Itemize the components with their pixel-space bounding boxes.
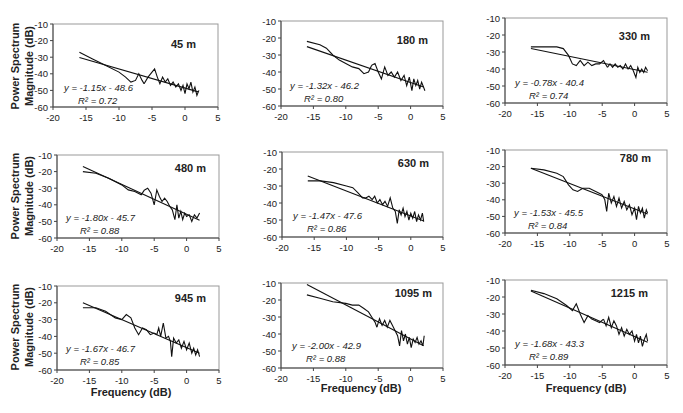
y-tick-label: -30 <box>486 309 500 320</box>
y-tick-label: -40 <box>38 199 52 210</box>
y-tick-label: -30 <box>38 183 52 194</box>
regression-equation: y = -1.53x - 45.5 <box>513 207 584 218</box>
y-tick-label: -50 <box>263 215 277 226</box>
y-tick-label: -30 <box>262 312 276 323</box>
x-tick-label: 0 <box>408 242 413 253</box>
y-tick-label: -20 <box>486 161 500 172</box>
x-tick-label: 0 <box>184 375 189 386</box>
y-tick-label: -50 <box>38 348 52 359</box>
y-tick-label: -30 <box>263 181 277 192</box>
panel-label: 1215 m <box>611 287 649 299</box>
x-tick-label: 5 <box>440 111 445 122</box>
regression-equation: y = -1.68x - 43.3 <box>514 338 585 349</box>
y-axis-title-row-1: Power Spectrum Magnitude (dB) <box>9 22 35 109</box>
x-tick-label: 0 <box>632 370 637 381</box>
panel-8: -10-20-30-40-50-60-20-15-10-5051095 my =… <box>262 278 445 385</box>
regression-equation: y = -1.15x - 48.6 <box>63 82 134 93</box>
regression-equation: y = -1.32x - 46.2 <box>289 80 360 91</box>
series-spectrum-line <box>602 193 647 220</box>
y-tick-label: -60 <box>262 363 276 374</box>
x-tick-label: -5 <box>150 243 158 254</box>
r-squared-label: R² = 0.84 <box>528 220 567 231</box>
y-tick-label: -10 <box>486 275 500 286</box>
y-tick-label: -60 <box>486 360 500 371</box>
y-tick-label: -20 <box>486 292 500 303</box>
series-spectrum-line <box>604 317 648 346</box>
y-tick-label: -30 <box>38 314 52 325</box>
y-tick-label: -30 <box>486 178 500 189</box>
series-spectrum-line <box>366 196 424 223</box>
y-tick-label: -60 <box>34 102 48 113</box>
x-tick-label: 5 <box>664 108 669 119</box>
panel-6: -10-20-30-40-50-60-20-15-10-505780 my = … <box>486 145 669 250</box>
y-tick-label: -50 <box>262 84 276 95</box>
series-smoothed-line <box>79 52 144 84</box>
x-tick-label: -10 <box>340 242 354 253</box>
y-axis-title-line1: Power Spectrum <box>9 152 21 239</box>
panel-3: -10-20-30-40-50-60-20-15-10-505330 my = … <box>486 13 669 120</box>
panel-5: -10-20-30-40-50-60-20-15-10-505630 my = … <box>263 147 445 254</box>
y-tick-label: -10 <box>38 150 52 161</box>
r-squared-label: R² = 0.88 <box>80 225 120 236</box>
panel-label: 945 m <box>175 292 206 304</box>
x-tick-label: -10 <box>112 112 126 123</box>
r-squared-label: R² = 0.86 <box>307 223 347 234</box>
regression-equation: y = -1.47x - 47.6 <box>292 210 363 221</box>
panel-label: 330 m <box>619 30 650 42</box>
series-spectrum-line <box>144 69 199 96</box>
panel-2: -10-20-30-40-50-60-20-15-10-505180 my = … <box>262 16 445 123</box>
x-tick-label: -15 <box>83 375 97 386</box>
y-tick-label: -40 <box>262 329 276 340</box>
x-tick-label: -20 <box>50 375 64 386</box>
x-tick-label: -15 <box>83 243 97 254</box>
regression-equation: y = -0.78x - 40.4 <box>514 77 584 88</box>
x-tick-label: -5 <box>374 111 382 122</box>
y-tick-label: -20 <box>262 33 276 44</box>
y-tick-label: -20 <box>38 166 52 177</box>
x-tick-label: -15 <box>307 242 321 253</box>
x-tick-label: -10 <box>115 375 129 386</box>
y-tick-label: -20 <box>486 30 500 41</box>
y-tick-label: -20 <box>34 35 48 46</box>
y-tick-label: -30 <box>34 52 48 63</box>
x-tick-label: 0 <box>632 238 637 249</box>
y-tick-label: -20 <box>262 295 276 306</box>
y-tick-label: -50 <box>486 343 500 354</box>
y-tick-label: -60 <box>38 233 52 244</box>
y-tick-label: -40 <box>262 67 276 78</box>
x-axis-title-col-3: Frequency (dB) <box>546 382 627 394</box>
x-tick-label: -20 <box>498 238 512 249</box>
series-smoothed-line <box>531 47 608 67</box>
x-tick-label: 0 <box>408 111 413 122</box>
panel-label: 180 m <box>397 34 428 46</box>
y-tick-label: -10 <box>486 145 500 156</box>
x-tick-label: -5 <box>598 108 606 119</box>
x-tick-label: 0 <box>632 108 637 119</box>
y-tick-label: -40 <box>263 198 277 209</box>
r-squared-label: R² = 0.74 <box>529 90 568 101</box>
series-smoothed-line <box>83 308 154 335</box>
x-tick-label: -20 <box>274 373 288 384</box>
regression-equation: y = -1.67x - 46.7 <box>65 343 136 354</box>
x-tick-label: -10 <box>563 238 577 249</box>
figure: -10-20-30-40-50-60-20-15-10-50545 my = -… <box>0 0 683 413</box>
panel-label: 45 m <box>171 38 196 50</box>
series-spectrum-line <box>154 323 199 357</box>
x-tick-label: -15 <box>531 370 545 381</box>
y-tick-label: -50 <box>262 346 276 357</box>
y-tick-label: -10 <box>263 147 277 158</box>
x-tick-label: -20 <box>274 111 288 122</box>
y-tick-label: -10 <box>486 13 500 24</box>
y-tick-label: -10 <box>38 281 52 292</box>
r-squared-label: R² = 0.72 <box>78 95 118 106</box>
y-tick-label: -60 <box>263 232 277 243</box>
x-tick-label: 5 <box>664 370 669 381</box>
x-tick-label: -15 <box>307 111 321 122</box>
x-tick-label: -20 <box>50 243 64 254</box>
series-smoothed-line <box>83 172 145 195</box>
y-tick-label: -40 <box>38 331 52 342</box>
y-tick-label: -50 <box>486 81 500 92</box>
x-tick-label: -20 <box>46 112 60 123</box>
panel-7: -10-20-30-40-50-60-20-15-10-505945 my = … <box>38 281 221 387</box>
x-tick-label: 0 <box>408 373 413 384</box>
